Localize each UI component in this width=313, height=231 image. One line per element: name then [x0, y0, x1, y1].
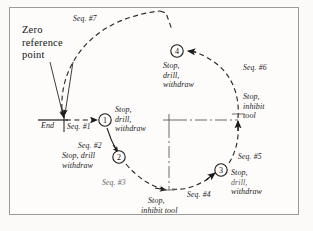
node3-action-line3: withdraw	[231, 187, 262, 197]
zero-reference-point-label: Zero reference point	[22, 24, 98, 62]
stop-bottom-line2: inhibit tool	[141, 206, 178, 216]
seq-label-6: Seq. #6	[243, 63, 267, 73]
end-label: End	[41, 121, 54, 131]
stop-right-line3: tool	[243, 111, 256, 121]
stop-right-line2: inhibit	[243, 102, 265, 112]
node4-action-line1: Stop,	[163, 61, 180, 71]
seq-label-1: Seq. #1	[67, 122, 91, 132]
node3-action-line1: Stop,	[231, 168, 248, 178]
stop-right-line1: Stop,	[243, 92, 260, 102]
node1-action-line1: Stop,	[115, 105, 132, 115]
node2-action-line2: withdraw	[62, 161, 93, 171]
node-number-4: 4	[171, 45, 184, 58]
node1-action-line3: withdraw	[115, 124, 146, 134]
seq4-path	[172, 173, 215, 189]
seq-label-5: Seq. #5	[238, 152, 262, 162]
node4-action-line3: withdraw	[163, 80, 194, 90]
seq-label-3: Seq. #3	[102, 178, 126, 188]
node-number-3: 3	[215, 164, 228, 177]
node-number-2: 2	[113, 151, 126, 164]
node1-action-line2: drill,	[115, 115, 131, 125]
node4-action-line2: drill,	[163, 71, 179, 81]
nc-drilling-sequence-figure: Zero reference point 1 2 3 4 Seq. #7 Seq…	[0, 0, 313, 231]
node2-action-line1: Stop, drill	[62, 151, 95, 161]
seq5-path	[229, 121, 238, 163]
node3-action-line2: drill,	[231, 178, 247, 188]
seq3-path	[126, 164, 166, 190]
node-number-1: 1	[99, 114, 112, 127]
stop-bottom-line1: Stop,	[148, 196, 165, 206]
seq-label-2: Seq. #2	[78, 141, 102, 151]
seq-label-7: Seq. #7	[73, 14, 97, 24]
seq-label-4: Seq. #4	[187, 190, 211, 200]
seq6-path	[188, 51, 238, 118]
